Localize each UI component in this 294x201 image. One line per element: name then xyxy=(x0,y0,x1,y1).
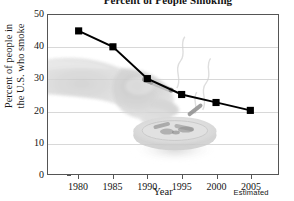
data-point-marker xyxy=(178,91,185,98)
data-point-marker xyxy=(144,75,151,82)
plot-area xyxy=(47,14,279,175)
estimated-annotation: Estimated xyxy=(223,188,279,197)
x-axis-tick-mark xyxy=(147,175,148,179)
data-point-marker xyxy=(109,43,116,50)
chart-title: Percent of People Smoking xyxy=(48,0,288,6)
data-point-marker xyxy=(75,27,82,34)
x-axis-tick-mark xyxy=(251,175,252,179)
y-axis-tick-label: 10 xyxy=(22,138,44,148)
y-axis-tick-label: 30 xyxy=(22,73,44,83)
y-axis-tick-label: 0 xyxy=(22,170,44,180)
data-series-line xyxy=(48,15,278,174)
x-axis-tick-mark xyxy=(113,175,114,179)
x-axis-tick-mark xyxy=(182,175,183,179)
y-axis-tick-labels: 01020304050 xyxy=(20,14,44,175)
y-axis-title-line-1: Percent of people in xyxy=(3,24,15,108)
chart-figure: Percent of People Smoking Percent of peo… xyxy=(0,0,294,201)
data-point-marker xyxy=(212,99,219,106)
y-axis-tick-label: 40 xyxy=(22,41,44,51)
x-axis-tick-mark xyxy=(78,175,79,179)
data-point-marker xyxy=(247,107,254,114)
x-axis-tick-mark xyxy=(217,175,218,179)
y-axis-tick-label: 50 xyxy=(22,9,44,19)
y-axis-tick-label: 20 xyxy=(22,106,44,116)
